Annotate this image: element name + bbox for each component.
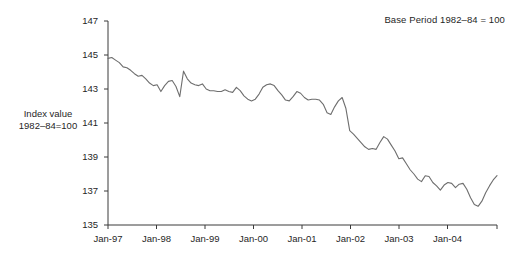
y-tick-label: 147 <box>70 16 98 26</box>
y-tick-label: 137 <box>70 186 98 196</box>
y-tick-label: 135 <box>70 220 98 230</box>
y-tick-label: 145 <box>70 50 98 60</box>
y-tick-label: 141 <box>70 118 98 128</box>
x-tick-label: Jan-04 <box>418 234 478 244</box>
y-tick-label: 139 <box>70 152 98 162</box>
axis-spine <box>108 21 497 225</box>
data-series-line <box>108 58 497 207</box>
y-tick-label: 143 <box>70 84 98 94</box>
chart-container: Base Period 1982–84 = 100 Index value 19… <box>0 0 519 259</box>
